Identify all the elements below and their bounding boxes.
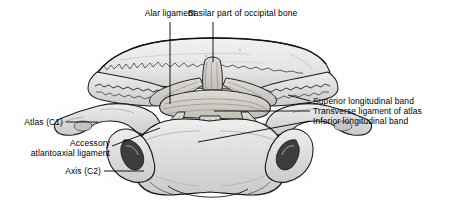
superior-longitudinal-band [203, 57, 223, 90]
label-accessory-line1: Accessory [0, 138, 110, 148]
label-atlas-c1: Atlas (C1) [0, 117, 63, 127]
axis-left-process [106, 128, 156, 184]
label-inferior-longitudinal-band: Inferior longitudinal band [313, 116, 408, 126]
label-axis-c2: Axis (C2) [0, 166, 101, 176]
label-superior-longitudinal-band: Superior longitudinal band [313, 96, 414, 106]
label-transverse-ligament-of-atlas: Transverse ligament of atlas [313, 106, 422, 116]
label-basilar-part: Basilar part of occipital bone [188, 8, 297, 18]
axis-right-process [264, 128, 316, 184]
label-accessory-line2: atlantoaxial ligament [0, 148, 110, 158]
